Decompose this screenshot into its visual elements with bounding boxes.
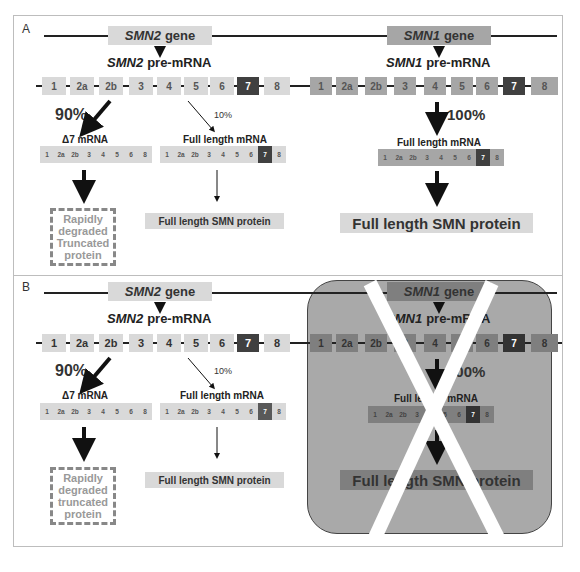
truncated-text: degraded xyxy=(57,225,110,237)
exon: 6 xyxy=(244,146,258,163)
exon-7: 7 xyxy=(503,77,525,95)
exon: 5 xyxy=(184,77,208,95)
smn1-fl-protein-a: Full length SMN protein xyxy=(340,213,533,233)
exon: 3 xyxy=(202,146,216,163)
exon: 4 xyxy=(216,146,230,163)
gene-suffix: gene xyxy=(165,28,195,43)
gene-name: SMN1 xyxy=(404,28,440,43)
truncated-text: degraded xyxy=(58,484,108,496)
fl-mrna-label-a: Full length mRNA xyxy=(183,134,267,145)
smn1-gene-box-a: SMN1gene xyxy=(387,26,491,45)
exon: 8 xyxy=(531,334,558,352)
fl-mrna-strip-a: 1 2a 2b 3 4 5 6 7 8 xyxy=(160,146,286,163)
percent-100-b: 100% xyxy=(447,363,485,380)
exon: 1 xyxy=(378,149,392,166)
exon: 4 xyxy=(434,149,448,166)
delta7-mrna-strip-b: 1 2a 2b 3 4 5 6 8 xyxy=(40,403,152,420)
exon: 6 xyxy=(462,149,476,166)
percent-100-a: 100% xyxy=(447,106,485,123)
exon: 4 xyxy=(96,403,110,420)
exon: 5 xyxy=(451,334,473,352)
truncated-text: protein xyxy=(58,508,108,520)
exon: 5 xyxy=(448,149,462,166)
smn1-premrna-label-b: SMN1pre-mRNA xyxy=(386,311,490,326)
exon: 3 xyxy=(82,146,96,163)
exon: 8 xyxy=(264,334,290,352)
exon: 6 xyxy=(452,406,466,423)
exon: 4 xyxy=(157,334,181,352)
delta7-mrna-label-b: Δ7 mRNA xyxy=(62,390,108,401)
gene-name: SMN2 xyxy=(107,311,143,326)
smn2-fl-protein-a: Full length SMN protein xyxy=(145,213,284,229)
premrna-suffix: pre-mRNA xyxy=(147,55,211,70)
exon: 8 xyxy=(272,146,286,163)
exon-7: 7 xyxy=(503,334,525,352)
exon: 3 xyxy=(82,403,96,420)
exon: 8 xyxy=(264,77,290,95)
exon: 8 xyxy=(480,406,494,423)
fl-mrna-strip-b: 1 2a 2b 3 4 5 6 7 8 xyxy=(160,403,286,420)
truncated-text: truncated xyxy=(58,496,108,508)
exon: 1 xyxy=(42,77,66,95)
smn1-exon-row-a: 1 2a 2b 3 4 5 6 7 8 xyxy=(290,77,552,95)
exon: 1 xyxy=(42,334,66,352)
exon: 2a xyxy=(70,77,94,95)
exon: 5 xyxy=(110,403,124,420)
gene-suffix: gene xyxy=(165,284,195,299)
smn2-exon-row-b: 1 2a 2b 3 4 5 6 7 8 xyxy=(36,334,306,352)
exon-7: 7 xyxy=(237,334,259,352)
exon: 6 xyxy=(124,146,138,163)
truncated-protein-box-b: Rapidly degraded truncated protein xyxy=(50,467,116,525)
exon: 2a xyxy=(336,77,358,95)
smn2-fl-protein-b: Full length SMN protein xyxy=(145,472,284,488)
exon: 1 xyxy=(368,406,382,423)
exon-7: 7 xyxy=(466,406,480,423)
exon: 1 xyxy=(40,403,54,420)
gene-name: SMN2 xyxy=(125,284,161,299)
gene-suffix: gene xyxy=(444,284,474,299)
exon: 2a xyxy=(336,334,358,352)
exon: 8 xyxy=(490,149,504,166)
exon-7: 7 xyxy=(237,77,259,95)
exon: 2b xyxy=(365,77,387,95)
smn1-fl-mrna-label-a: Full length mRNA xyxy=(397,137,481,148)
percent-90-b: 90% xyxy=(55,362,87,380)
truncated-text: Rapidly xyxy=(58,472,108,484)
smn2-gene-box-a: SMN2gene xyxy=(108,26,212,45)
exon: 1 xyxy=(310,334,332,352)
gene-name: SMN2 xyxy=(125,28,161,43)
panel-label-b: B xyxy=(22,280,30,294)
exon: 2a xyxy=(54,403,68,420)
exon: 3 xyxy=(202,403,216,420)
exon: 4 xyxy=(424,334,446,352)
exon: 2b xyxy=(99,77,123,95)
smn1-premrna-label-a: SMN1pre-mRNA xyxy=(386,55,490,70)
smn2-premrna-label-a: SMN2pre-mRNA xyxy=(107,55,211,70)
truncated-protein-box-a: Rapidly degraded Truncated protein xyxy=(50,208,116,266)
exon-7: 7 xyxy=(258,403,272,420)
exon: 2a xyxy=(382,406,396,423)
premrna-suffix: pre-mRNA xyxy=(147,311,211,326)
exon: 6 xyxy=(124,403,138,420)
exon: 6 xyxy=(210,77,234,95)
exon: 5 xyxy=(230,146,244,163)
exon: 5 xyxy=(184,334,208,352)
exon: 4 xyxy=(424,406,438,423)
gene-suffix: gene xyxy=(444,28,474,43)
delta7-mrna-strip-a: 1 2a 2b 3 4 5 6 8 xyxy=(40,146,152,163)
percent-90-a: 90% xyxy=(55,106,87,124)
exon: 1 xyxy=(160,146,174,163)
truncated-text: Rapidly xyxy=(57,213,110,225)
exon: 8 xyxy=(531,77,558,95)
exon: 5 xyxy=(451,77,473,95)
exon: 2b xyxy=(188,146,202,163)
exon: 2b xyxy=(68,403,82,420)
exon: 6 xyxy=(476,77,498,95)
percent-10-a: 10% xyxy=(214,110,232,120)
smn1-fl-mrna-label-b: Full length mRNA xyxy=(394,393,478,404)
smn1-gene-box-b: SMN1gene xyxy=(387,282,491,301)
exon: 5 xyxy=(230,403,244,420)
exon: 2b xyxy=(365,334,387,352)
exon: 8 xyxy=(138,403,152,420)
premrna-suffix: pre-mRNA xyxy=(426,55,490,70)
